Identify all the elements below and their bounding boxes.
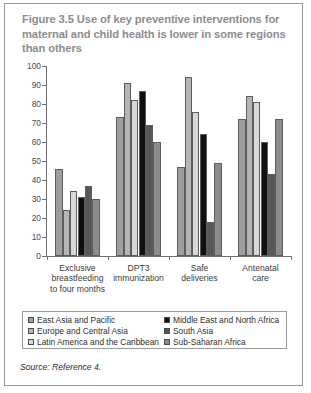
bar[interactable] (63, 210, 70, 256)
x-axis-tick (230, 256, 231, 260)
chart-plot-area: 1009080706050403020100 Exclusivebreastfe… (19, 66, 291, 271)
x-axis-label-line: to four months (39, 284, 116, 294)
x-axis-tick (291, 256, 292, 260)
legend-swatch (28, 339, 34, 345)
bar[interactable] (177, 167, 184, 256)
figure-title: Figure 3.5 Use of key preventive interve… (22, 12, 290, 56)
y-axis-tick-label: 50 (32, 156, 41, 166)
bar[interactable] (214, 163, 221, 256)
bar[interactable] (70, 191, 77, 256)
x-axis-tick (47, 256, 48, 260)
x-axis-label-line: Antenatal (222, 263, 299, 273)
bar-group (230, 66, 291, 256)
bar[interactable] (124, 83, 131, 256)
bar-group (108, 66, 169, 256)
bar[interactable] (268, 174, 275, 256)
bar[interactable] (116, 117, 123, 256)
bars-panel (47, 66, 291, 256)
y-axis-tick-label: 70 (32, 118, 41, 128)
legend-label: South Asia (173, 326, 213, 336)
x-axis-group-label: Antenatalcare (222, 263, 299, 284)
bar[interactable] (153, 142, 160, 256)
y-axis-tick-label: 0 (36, 251, 41, 261)
legend-item[interactable]: South Asia (164, 326, 213, 336)
bar[interactable] (146, 125, 153, 256)
bar[interactable] (253, 102, 260, 256)
legend-item[interactable]: Latin America and the Caribbean (28, 337, 159, 347)
y-axis-tick-label: 30 (32, 194, 41, 204)
y-axis-labels: 1009080706050403020100 (19, 66, 41, 256)
legend-item[interactable]: East Asia and Pacific (28, 315, 115, 325)
bar[interactable] (192, 112, 199, 256)
legend-label: Middle East and North Africa (173, 315, 279, 325)
legend-swatch (164, 317, 170, 323)
bar[interactable] (275, 119, 282, 256)
y-axis-tick-label: 80 (32, 99, 41, 109)
legend-swatch (28, 317, 34, 323)
chart-legend: East Asia and PacificEurope and Central … (22, 311, 287, 349)
legend-item[interactable]: Middle East and North Africa (164, 315, 279, 325)
y-axis-tick-label: 100 (27, 61, 41, 71)
legend-label: Europe and Central Asia (37, 326, 128, 336)
legend-swatch (28, 328, 34, 334)
legend-label: East Asia and Pacific (37, 315, 115, 325)
legend-item[interactable]: Europe and Central Asia (28, 326, 128, 336)
bar[interactable] (246, 96, 253, 256)
legend-item[interactable]: Sub-Saharan Africa (164, 337, 246, 347)
bar[interactable] (238, 119, 245, 256)
bar[interactable] (261, 142, 268, 256)
bar-group (47, 66, 108, 256)
bar[interactable] (200, 134, 207, 256)
x-axis-label-line: care (222, 273, 299, 283)
bar[interactable] (139, 91, 146, 256)
y-axis-tick-label: 90 (32, 80, 41, 90)
bar-group (169, 66, 230, 256)
legend-label: Latin America and the Caribbean (37, 337, 159, 347)
figure-container: Figure 3.5 Use of key preventive interve… (4, 3, 303, 386)
y-axis-tick-label: 60 (32, 137, 41, 147)
source-note: Source: Reference 4. (20, 362, 101, 372)
y-axis-tick-label: 20 (32, 213, 41, 223)
x-axis-tick (169, 256, 170, 260)
bar[interactable] (131, 100, 138, 256)
legend-swatch (164, 339, 170, 345)
legend-label: Sub-Saharan Africa (173, 337, 246, 347)
bar[interactable] (85, 186, 92, 256)
bar[interactable] (78, 197, 85, 256)
x-axis-tick (108, 256, 109, 260)
bar[interactable] (207, 222, 214, 256)
y-axis-tick-label: 40 (32, 175, 41, 185)
bar[interactable] (55, 169, 62, 256)
legend-swatch (164, 328, 170, 334)
y-axis-tick-label: 10 (32, 232, 41, 242)
bar[interactable] (185, 77, 192, 256)
bar[interactable] (92, 199, 99, 256)
